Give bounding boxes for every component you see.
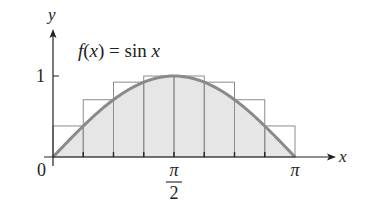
y-tick-label-1: 1 [36, 66, 45, 86]
x-tick-label-pi-half-numerator: π [169, 160, 179, 180]
x-tick-label-pi: π [290, 160, 300, 180]
y-axis-label: y [46, 5, 56, 24]
origin-label: 0 [37, 160, 46, 180]
riemann-sum-chart: y x f(x) = sin x 1 0 π 2 π [0, 0, 366, 208]
chart-title: f(x) = sin x [78, 40, 161, 62]
x-tick-label-pi-half-denominator: 2 [170, 183, 179, 203]
x-axis-label: x [338, 147, 347, 166]
